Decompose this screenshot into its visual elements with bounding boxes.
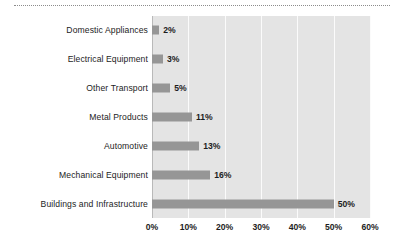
- category-label: Mechanical Equipment: [59, 170, 148, 180]
- x-tick-label: 20%: [216, 222, 233, 232]
- bar-value-label: 11%: [196, 112, 213, 122]
- x-tick-label: 0%: [146, 222, 158, 232]
- bar: [152, 84, 170, 93]
- bar-row: Automotive13%: [0, 131, 401, 160]
- bar-row: Electrical Equipment3%: [0, 45, 401, 74]
- bar: [152, 170, 210, 179]
- bar-value-label: 5%: [174, 83, 186, 93]
- category-label: Buildings and Infrastructure: [41, 199, 148, 209]
- dotted-divider: [14, 5, 390, 6]
- bar-row: Metal Products11%: [0, 103, 401, 132]
- bar-row: Mechanical Equipment16%: [0, 160, 401, 189]
- bar: [152, 112, 192, 121]
- x-tick-label: 60%: [361, 222, 378, 232]
- bar: [152, 55, 163, 64]
- bar-value-label: 50%: [338, 199, 355, 209]
- bar-value-label: 16%: [214, 170, 231, 180]
- category-label: Metal Products: [89, 112, 148, 122]
- x-tick-label: 40%: [289, 222, 306, 232]
- bar-value-label: 3%: [167, 54, 179, 64]
- bar: [152, 141, 199, 150]
- x-tick-label: 10%: [180, 222, 197, 232]
- bar-row: Domestic Appliances2%: [0, 16, 401, 45]
- category-label: Electrical Equipment: [68, 54, 148, 64]
- bar-value-label: 13%: [203, 141, 220, 151]
- x-tick-label: 30%: [252, 222, 269, 232]
- bar-row: Other Transport5%: [0, 74, 401, 103]
- category-label: Automotive: [104, 141, 148, 151]
- category-label: Other Transport: [86, 83, 148, 93]
- horizontal-bar-chart: Domestic Appliances2%Electrical Equipmen…: [0, 0, 401, 249]
- bar-row: Buildings and Infrastructure50%: [0, 189, 401, 218]
- bar-value-label: 2%: [163, 25, 175, 35]
- category-label: Domestic Appliances: [66, 25, 148, 35]
- bar: [152, 199, 334, 208]
- x-tick-label: 50%: [325, 222, 342, 232]
- bar: [152, 26, 159, 35]
